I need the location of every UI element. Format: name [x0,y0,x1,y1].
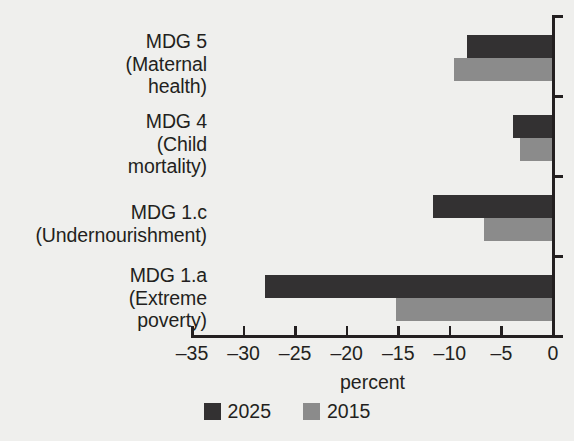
category-label-line: MDG 1.c [0,201,207,224]
x-axis-tick [294,326,297,335]
category-label-line: MDG 4 [0,110,207,133]
category-label-mdg1c: MDG 1.c (Undernourishment) [0,201,207,246]
x-axis-tick [552,326,555,335]
category-label-mdg4: MDG 4 (Child mortality) [0,110,207,178]
category-label-line: mortality) [0,155,207,178]
legend-label-2015: 2015 [327,402,370,422]
bar-2015-mdg1a[interactable] [396,298,552,321]
bar-2025-mdg1a[interactable] [265,275,552,298]
legend-swatch-2015 [303,403,320,420]
category-label-line: MDG 1.a [0,264,207,287]
x-axis-tick [243,326,246,335]
y-axis-tick [554,255,563,258]
x-axis-tick [346,326,349,335]
chart-legend: 2025 2015 [0,402,574,422]
y-axis-tick [554,175,563,178]
bar-2015-mdg4[interactable] [520,138,552,161]
category-axis-labels: MDG 5 (Maternal health) MDG 4 (Child mor… [0,16,207,336]
bar-2015-mdg5[interactable] [454,58,552,81]
y-axis-tick [554,335,563,338]
x-axis-title: percent [191,371,554,394]
category-label-mdg1a: MDG 1.a (Extreme poverty) [0,264,207,332]
category-label-line: (Maternal [0,53,207,76]
legend-label-2025: 2025 [228,402,271,422]
y-axis-tick [554,95,563,98]
x-axis-tick [500,326,503,335]
bar-chart-figure: MDG 5 (Maternal health) MDG 4 (Child mor… [0,0,574,441]
legend-swatch-2025 [204,403,221,420]
bar-2015-mdg1c[interactable] [484,218,552,241]
x-axis-tick-label: 0 [523,341,574,365]
plot-area [191,16,552,336]
category-label-line: poverty) [0,309,207,332]
y-axis-tick [554,15,563,18]
category-label-line: (Child [0,133,207,156]
x-axis-tick [191,326,194,335]
category-label-line: MDG 5 [0,30,207,53]
category-label-line: (Undernourishment) [0,224,207,247]
bar-2025-mdg1c[interactable] [433,195,552,218]
x-axis-line [191,335,555,338]
bar-2025-mdg4[interactable] [513,115,552,138]
legend-item-2025[interactable]: 2025 [204,402,271,422]
category-label-line: health) [0,75,207,98]
x-axis-tick [449,326,452,335]
bar-2025-mdg5[interactable] [467,35,552,58]
category-label-line: (Extreme [0,287,207,310]
x-axis-tick [397,326,400,335]
category-label-mdg5: MDG 5 (Maternal health) [0,30,207,98]
legend-item-2015[interactable]: 2015 [303,402,370,422]
